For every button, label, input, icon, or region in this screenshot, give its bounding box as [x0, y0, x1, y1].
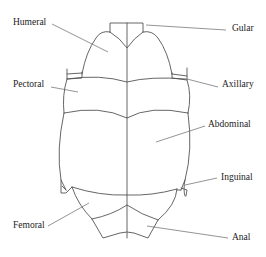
leader-femoral	[48, 203, 89, 226]
leader-abdominal	[156, 126, 205, 142]
anal-scutes	[92, 219, 158, 238]
leader-anal	[147, 226, 228, 238]
abdominal-femoral-seam	[72, 187, 177, 195]
label-gular: Gular	[232, 24, 254, 34]
label-femoral: Femoral	[13, 221, 45, 231]
gular-humeral-seam	[110, 32, 143, 48]
femoral-anal-seam	[92, 205, 158, 220]
label-inguinal: Inguinal	[221, 173, 253, 183]
leader-gular	[146, 25, 226, 30]
abdominal-sides	[59, 113, 190, 190]
inguinal-notch-left	[61, 180, 72, 193]
label-axillary: Axillary	[222, 80, 254, 90]
label-humeral: Humeral	[13, 18, 46, 28]
gular-scute	[110, 23, 143, 32]
label-abdominal: Abdominal	[208, 120, 251, 130]
label-anal: Anal	[232, 233, 250, 243]
leader-axillary	[187, 79, 218, 87]
humeral-pectoral-seam	[67, 77, 186, 82]
leader-humeral	[52, 24, 108, 52]
inguinal-notch-right	[177, 180, 187, 196]
pectoral-abdominal-seam	[64, 110, 188, 118]
leader-inguinal	[185, 178, 217, 185]
label-pectoral: Pectoral	[13, 80, 44, 90]
